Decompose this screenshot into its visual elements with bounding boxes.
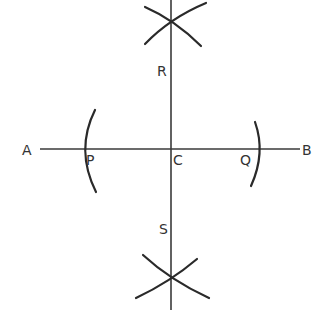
top-arc-from-p (145, 7, 201, 46)
label-b: B (302, 142, 312, 158)
label-q: Q (240, 152, 251, 168)
construction-diagram: A B P C Q R S (0, 0, 314, 320)
arc-through-q (251, 122, 260, 186)
bottom-arc-from-p (143, 255, 209, 298)
label-s: S (159, 221, 168, 237)
label-r: R (157, 63, 167, 79)
label-a: A (22, 142, 32, 158)
label-c: C (173, 152, 183, 168)
arc-through-p (85, 110, 96, 192)
label-p: P (86, 152, 94, 168)
bottom-arc-from-q (136, 259, 197, 298)
